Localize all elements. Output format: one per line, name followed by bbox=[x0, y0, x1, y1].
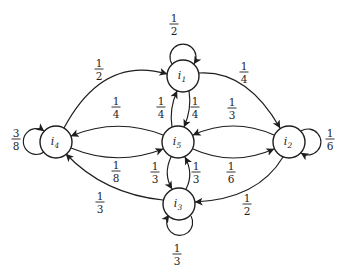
fraction-denominator: 2 bbox=[96, 70, 103, 82]
fraction-denominator: 2 bbox=[171, 25, 178, 37]
probability-label-i3-i4: 13 bbox=[96, 190, 105, 215]
fraction-numerator: 1 bbox=[193, 160, 200, 172]
fraction-numerator: 1 bbox=[228, 160, 235, 172]
fraction-denominator: 3 bbox=[97, 203, 104, 215]
probability-label-i4-i1: 12 bbox=[95, 57, 104, 82]
probability-label-i5-i2: 16 bbox=[227, 160, 236, 185]
transition-arrow-i2-i3 bbox=[195, 157, 283, 202]
transition-arrow-i5-i1 bbox=[171, 91, 177, 127]
probability-label-i5-i3: 13 bbox=[151, 160, 160, 185]
transition-arrow-i1-i2 bbox=[199, 73, 280, 128]
fraction-denominator: 4 bbox=[113, 108, 120, 120]
transition-arrow-i5-i2 bbox=[193, 149, 274, 158]
fraction-denominator: 3 bbox=[193, 173, 200, 185]
fraction-denominator: 6 bbox=[327, 140, 334, 152]
state-label-subscript: 3 bbox=[177, 203, 182, 212]
probability-label-i2-i3: 12 bbox=[243, 192, 252, 217]
probability-label-i5-i4: 14 bbox=[112, 95, 121, 120]
fraction-denominator: 3 bbox=[229, 109, 236, 121]
probability-label-i3-i3: 13 bbox=[173, 242, 182, 267]
fraction-numerator: 1 bbox=[241, 60, 248, 72]
probability-label-i2-i2: 16 bbox=[326, 127, 335, 152]
fraction-numerator: 1 bbox=[244, 192, 251, 204]
transition-arrow-i1-i5 bbox=[184, 91, 190, 127]
fraction-denominator: 3 bbox=[152, 173, 159, 185]
probability-label-i1-i2: 14 bbox=[240, 60, 249, 85]
fraction-denominator: 3 bbox=[174, 255, 181, 267]
transition-arrow-i4-i5 bbox=[71, 148, 163, 158]
fraction-numerator: 3 bbox=[13, 127, 20, 139]
state-diagram-svg: 12141416131213131338121814141613i1i2i3i4… bbox=[0, 0, 351, 280]
fraction-numerator: 1 bbox=[158, 95, 165, 107]
fraction-numerator: 1 bbox=[113, 95, 120, 107]
probability-label-i2-i5: 13 bbox=[228, 96, 237, 121]
probability-label-i4-i4: 38 bbox=[12, 127, 21, 152]
transition-arrow-i3-i5 bbox=[185, 157, 190, 189]
markov-chain-figure: 12141416131213131338121814141613i1i2i3i4… bbox=[0, 0, 351, 280]
fraction-numerator: 1 bbox=[327, 127, 334, 139]
fraction-numerator: 1 bbox=[192, 95, 199, 107]
fraction-numerator: 1 bbox=[96, 57, 103, 69]
transition-arrow-i5-i4 bbox=[71, 126, 163, 136]
fraction-denominator: 6 bbox=[228, 173, 235, 185]
fraction-denominator: 8 bbox=[113, 172, 120, 184]
fraction-denominator: 4 bbox=[241, 73, 248, 85]
fraction-numerator: 1 bbox=[171, 12, 178, 24]
state-label-subscript: 4 bbox=[53, 141, 59, 150]
fraction-denominator: 8 bbox=[13, 140, 20, 152]
fraction-denominator: 4 bbox=[158, 108, 165, 120]
fraction-denominator: 4 bbox=[192, 108, 199, 120]
fraction-numerator: 1 bbox=[174, 242, 181, 254]
state-label-subscript: 5 bbox=[176, 141, 181, 150]
probability-label-i3-i5: 13 bbox=[192, 160, 201, 185]
fraction-numerator: 1 bbox=[152, 160, 159, 172]
transition-arrow-i2-i5 bbox=[193, 126, 274, 135]
transition-arrow-i5-i3 bbox=[167, 157, 172, 189]
probability-label-i4-i5: 18 bbox=[112, 159, 121, 184]
probability-label-i1-i1: 12 bbox=[170, 12, 179, 37]
probability-label-i5-i1: 14 bbox=[157, 95, 166, 120]
fraction-numerator: 1 bbox=[97, 190, 104, 202]
fraction-numerator: 1 bbox=[113, 159, 120, 171]
probability-label-i1-i5: 14 bbox=[191, 95, 200, 120]
fraction-numerator: 1 bbox=[229, 96, 236, 108]
fraction-denominator: 2 bbox=[244, 205, 251, 217]
state-label-subscript: 1 bbox=[181, 75, 186, 84]
state-label-subscript: 2 bbox=[286, 141, 292, 150]
